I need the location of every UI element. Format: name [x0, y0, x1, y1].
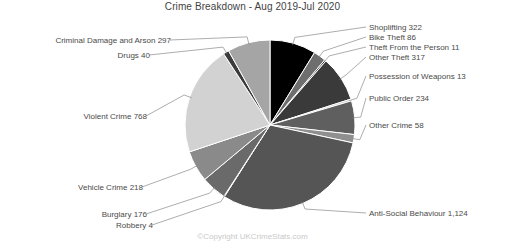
leader-line	[170, 37, 249, 45]
pie-slices	[185, 40, 355, 210]
slice-label-violent-crime: Violent Crime 768	[84, 112, 147, 121]
leader-line	[339, 57, 366, 79]
slice-label-public-order: Public Order 234	[369, 94, 429, 103]
leader-line	[146, 187, 215, 214]
slice-label-robbery: Robbery 4	[116, 221, 153, 230]
leader-line	[324, 47, 366, 62]
slice-label-other-theft: Other Theft 317	[369, 53, 425, 62]
slice-label-criminal-damage-and-arson: Criminal Damage and Arson 297	[55, 36, 171, 45]
leader-line	[302, 202, 366, 213]
slice-label-bike-theft: Bike Theft 86	[369, 33, 416, 42]
leader-line	[319, 37, 366, 58]
slice-label-other-crime: Other Crime 58	[369, 121, 424, 130]
slice-label-vehicle-crime: Vehicle Crime 218	[78, 183, 143, 192]
leader-line	[152, 195, 225, 225]
leader-line	[149, 47, 227, 55]
copyright-notice: ©Copyright UKCrimeStats.com	[0, 232, 505, 241]
leader-line	[142, 165, 198, 187]
slice-label-theft-from-the-person: Theft From the Person 11	[369, 43, 460, 52]
leader-line	[146, 95, 192, 116]
slice-label-burglary: Burglary 176	[102, 210, 147, 219]
leader-line	[349, 76, 366, 101]
slice-label-shoplifting: Shoplifting 322	[369, 23, 422, 32]
slice-label-anti-social-behaviour: Anti-Social Behaviour 1,124	[369, 209, 468, 218]
leader-line	[293, 27, 366, 45]
slice-label-drugs: Drugs 40	[118, 51, 150, 60]
pie-chart-figure: Crime Breakdown - Aug 2019-Jul 2020 Shop…	[0, 0, 505, 249]
slice-label-possession-of-weapons: Possession of Weapons 13	[369, 72, 466, 81]
